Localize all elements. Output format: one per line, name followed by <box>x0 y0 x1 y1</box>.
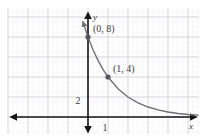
exponential-decay-graph: 2 1 y x (0, 8) (1, 4) <box>0 0 204 139</box>
x-tick-label-1: 1 <box>103 122 108 133</box>
y-axis-label: y <box>92 12 97 22</box>
data-point-1-4 <box>105 74 110 79</box>
y-tick-label-2: 2 <box>76 95 81 106</box>
x-axis-label: x <box>188 121 193 131</box>
figure-background <box>0 0 204 139</box>
data-point-label-0-8: (0, 8) <box>93 23 115 35</box>
data-point-label-1-4: (1, 4) <box>113 63 135 75</box>
data-point-0-8 <box>85 34 90 39</box>
